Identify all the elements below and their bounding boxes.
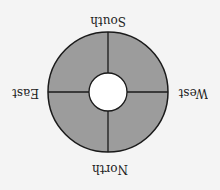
label-south: South: [90, 14, 126, 28]
label-west: West: [179, 86, 208, 100]
compass-diagram: North South East West: [0, 0, 220, 190]
label-east: East: [12, 86, 39, 100]
label-north: North: [92, 162, 128, 176]
center-hole: [89, 73, 127, 111]
